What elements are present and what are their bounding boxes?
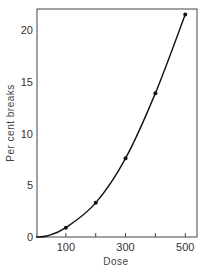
data-point [64,226,68,230]
x-tick-label: 500 [176,241,194,253]
data-point [124,156,128,160]
y-tick-label: 0 [27,231,33,243]
y-tick-label: 15 [21,76,33,88]
x-tick-label: 100 [57,241,75,253]
data-point [94,201,98,205]
data-markers [64,12,187,229]
data-point [183,12,187,16]
data-curve [36,14,185,237]
data-point [153,91,157,95]
x-axis-title: Dose [103,256,128,267]
y-axis-tick-labels: 05101520 [21,24,33,243]
dose-response-chart: 100300500 05101520 Dose Per cent breaks [0,0,209,273]
plot-frame [37,9,197,237]
x-axis-ticks [66,233,185,237]
y-axis-title: Per cent breaks [5,84,16,162]
y-tick-label: 5 [27,179,33,191]
y-tick-label: 10 [21,128,33,140]
x-axis-tick-labels: 100300500 [57,241,195,253]
x-tick-label: 300 [116,241,134,253]
y-tick-label: 20 [21,24,33,36]
